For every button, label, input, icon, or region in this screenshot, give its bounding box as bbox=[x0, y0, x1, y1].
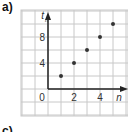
x-axis-label: n bbox=[116, 92, 122, 103]
data-point bbox=[72, 61, 76, 65]
x-tick-label: 4 bbox=[97, 92, 103, 103]
x-tick-label: 2 bbox=[71, 92, 77, 103]
next-panel-label: c) bbox=[2, 124, 13, 132]
y-tick-label: 8 bbox=[39, 32, 45, 43]
data-point bbox=[59, 74, 63, 78]
origin-label: 0 bbox=[39, 92, 45, 103]
data-point bbox=[85, 48, 89, 52]
y-tick-label: 4 bbox=[39, 58, 45, 69]
scatter-chart: 02448ntn bbox=[0, 0, 128, 132]
data-point bbox=[98, 35, 102, 39]
data-point bbox=[111, 22, 115, 26]
